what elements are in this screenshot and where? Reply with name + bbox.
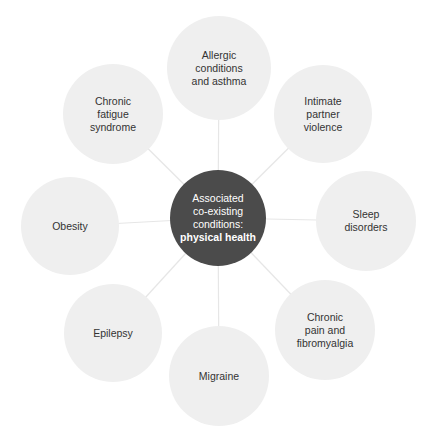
condition-label-line: fibromyalgia [297,337,354,350]
condition-node-migraine: Migraine [169,326,269,426]
condition-label-line: disorders [344,221,387,234]
condition-label-line: Sleep [344,208,387,221]
condition-node-sleep: Sleepdisorders [316,171,416,271]
condition-node-epilepsy: Epilepsy [64,284,162,382]
condition-node-ipv: Intimatepartnerviolence [274,65,372,163]
condition-label-line: Epilepsy [93,327,133,340]
center-node-label: Associated co-existing conditions: physi… [174,192,262,244]
condition-label-line: and asthma [192,75,247,88]
condition-node-obesity: Obesity [21,177,119,275]
condition-label: Epilepsy [87,327,139,340]
condition-label: Sleepdisorders [338,208,393,234]
condition-label: Chronicfatiguesyndrome [84,95,142,134]
condition-label: Migraine [193,370,245,383]
condition-label-line: Obesity [52,220,88,233]
condition-label: Intimatepartnerviolence [298,95,349,134]
physical-health-conditions-diagram: Associated co-existing conditions: physi… [0,0,432,434]
center-line: co-existing [180,205,256,218]
condition-label-line: Migraine [199,370,239,383]
center-line: conditions: [180,218,256,231]
condition-label: Obesity [46,220,94,233]
condition-label-line: violence [304,121,343,134]
condition-label-line: conditions [192,62,247,75]
condition-node-allergic: Allergicconditionsand asthma [167,16,271,120]
center-line: Associated [180,192,256,205]
condition-label-line: partner [304,108,343,121]
condition-label-line: Allergic [192,49,247,62]
condition-label-line: pain and [297,324,354,337]
center-bold-line: physical health [180,231,256,244]
condition-label: Allergicconditionsand asthma [186,49,253,88]
condition-label-line: Intimate [304,95,343,108]
center-node: Associated co-existing conditions: physi… [170,170,266,266]
condition-label: Chronicpain andfibromyalgia [291,311,360,350]
condition-label-line: Chronic [90,95,136,108]
condition-node-chronic-pain: Chronicpain andfibromyalgia [275,280,375,380]
condition-label-line: Chronic [297,311,354,324]
condition-label-line: fatigue [90,108,136,121]
condition-label-line: syndrome [90,121,136,134]
condition-node-cfs: Chronicfatiguesyndrome [63,64,163,164]
